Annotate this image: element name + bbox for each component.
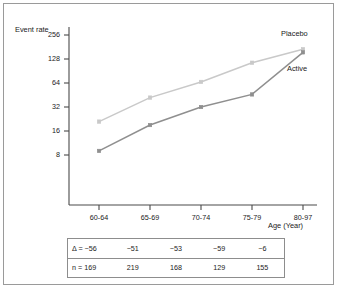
table-cell-n-1: 219 [111, 258, 154, 277]
table-cell-n-4: 155 [241, 258, 284, 277]
data-point-active-60-64 [97, 149, 100, 152]
table-row-delta: Δ = −56 −51 −53 −59 −6 [68, 239, 284, 258]
table-cell-delta-1: −51 [111, 239, 154, 258]
data-point-placebo-60-64 [97, 120, 100, 123]
data-point-active-70-74 [199, 105, 202, 108]
y-tick-label-128: 128 [36, 55, 60, 62]
data-point-placebo-70-74 [199, 80, 202, 83]
x-tick-label-80-97: 80-97 [282, 214, 324, 221]
data-point-placebo-75-79 [250, 61, 253, 64]
y-tick-label-8: 8 [36, 151, 60, 158]
table-cell-delta-label: Δ = −56 [68, 239, 111, 258]
table-cell-n-label: n = 169 [68, 258, 111, 277]
y-tick-label-32: 32 [36, 103, 60, 110]
table-cell-delta-3: −59 [198, 239, 241, 258]
series-label-active: Active [287, 65, 307, 72]
x-tick-label-60-64: 60-64 [78, 214, 120, 221]
axes [69, 27, 317, 205]
x-tick-label-70-74: 70-74 [180, 214, 222, 221]
data-point-placebo-80-97 [301, 47, 304, 50]
y-tick-label-16: 16 [36, 127, 60, 134]
figure-container: Event rate Age (Year) 256 128 64 32 16 8… [0, 0, 338, 289]
series-line-placebo [99, 49, 303, 121]
x-tick-label-75-79: 75-79 [231, 214, 273, 221]
data-point-active-80-97 [301, 51, 304, 54]
y-tick-label-256: 256 [36, 31, 60, 38]
data-point-active-75-79 [250, 93, 253, 96]
table-cell-n-3: 129 [198, 258, 241, 277]
series-markers-placebo [97, 47, 304, 123]
x-axis-label: Age (Year) [268, 222, 303, 229]
summary-table: Δ = −56 −51 −53 −59 −6 n = 169 219 168 1… [67, 238, 285, 278]
data-point-placebo-65-69 [148, 96, 151, 99]
x-tick-label-65-69: 65-69 [129, 214, 171, 221]
table-cell-n-2: 168 [154, 258, 197, 277]
y-axis-ticks [64, 35, 69, 155]
table-row-n: n = 169 219 168 129 155 [68, 258, 284, 277]
y-tick-label-64: 64 [36, 79, 60, 86]
data-point-active-65-69 [148, 123, 151, 126]
series-markers-active [97, 51, 304, 153]
series-label-placebo: Placebo [281, 30, 308, 37]
table-cell-delta-4: −6 [241, 239, 284, 258]
x-axis-ticks [99, 205, 303, 210]
series-line-active [99, 52, 303, 151]
table-cell-delta-2: −53 [154, 239, 197, 258]
